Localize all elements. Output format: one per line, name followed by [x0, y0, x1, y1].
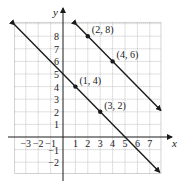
y-axis-label: y [52, 6, 58, 18]
coordinate-plane-chart: −3−2−11234567 −2−112345678 x y (1, 4)(3,… [0, 0, 179, 192]
x-tick-labels: −3−2−11234567 [20, 138, 152, 149]
y-tick-label: 1 [54, 119, 59, 130]
x-tick-label: 2 [85, 138, 90, 149]
y-tick-label: 3 [54, 94, 59, 105]
x-tick-label: 7 [147, 138, 152, 149]
data-point [110, 59, 114, 63]
point-label: (2, 8) [92, 24, 114, 36]
y-tick-label: 5 [54, 69, 59, 80]
point-label: (4, 6) [117, 49, 139, 61]
point-label: (3, 2) [104, 100, 126, 112]
axes [8, 8, 172, 181]
data-points: (1, 4)(3, 2)(2, 8)(4, 6) [73, 24, 138, 114]
data-point [98, 110, 102, 114]
y-tick-label: 4 [54, 82, 59, 93]
data-point [73, 84, 77, 88]
y-tick-label: 8 [54, 31, 59, 42]
x-tick-label: −3 [20, 138, 31, 149]
y-tick-labels: −2−112345678 [48, 31, 59, 168]
series-line-1 [15, 25, 160, 172]
y-tick-label: −1 [48, 145, 59, 156]
y-tick-label: 2 [54, 107, 59, 118]
x-tick-label: 1 [73, 138, 78, 149]
data-point [86, 34, 90, 38]
x-tick-label: −2 [33, 138, 44, 149]
point-label: (1, 4) [79, 75, 101, 87]
y-tick-label: 7 [54, 44, 59, 55]
x-axis-label: x [171, 137, 177, 149]
x-tick-label: 3 [98, 138, 103, 149]
x-tick-label: 4 [110, 138, 115, 149]
y-tick-label: −2 [48, 157, 59, 168]
